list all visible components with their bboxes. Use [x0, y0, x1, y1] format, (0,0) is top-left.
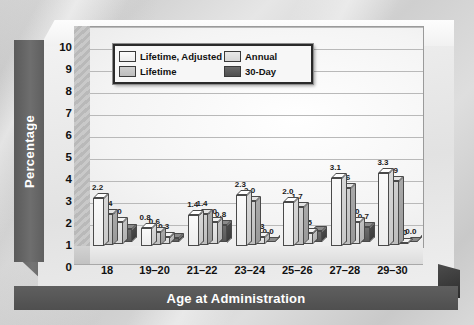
bar-29-30-lifetime-adjusted: 3.3	[378, 173, 389, 246]
bar-value-label: 2.2	[92, 183, 103, 192]
y-tick-4: 4	[46, 173, 72, 185]
bar-front	[141, 228, 152, 246]
bar-front	[188, 215, 199, 246]
bar-side	[104, 193, 109, 246]
plot-floor-side	[74, 246, 90, 264]
x-tick-19-20: 19–20	[139, 264, 170, 276]
chart-figure: Percentage 109876543210 2.21.41.00.80.60…	[0, 0, 474, 325]
x-tick-25-26: 25–26	[282, 264, 313, 276]
bar-19-20-lifetime-adjusted: 0.8	[141, 228, 152, 246]
bar-side	[399, 176, 404, 245]
x-tick-29-30: 29–30	[377, 264, 408, 276]
x-axis-tick-labels: 1819–2021–2223–2425–2627–2829–30	[90, 264, 423, 280]
bar-side	[113, 209, 118, 245]
y-tick-7: 7	[46, 107, 72, 119]
bar-group-27-28: 3.12.61.00.7	[331, 26, 379, 246]
bar-value-label: 0.8	[140, 213, 151, 222]
x-tick-18: 18	[101, 264, 113, 276]
y-axis-title: Percentage	[14, 40, 44, 262]
x-tick-21-22: 21–22	[187, 264, 218, 276]
legend-item-3[interactable]: 30-Day	[224, 64, 307, 79]
bar-value-label: 3.3	[377, 158, 388, 167]
bar-front	[236, 195, 247, 246]
x-axis-title: Age at Administration	[14, 286, 458, 310]
y-tick-10: 10	[46, 41, 72, 53]
legend-item-2[interactable]: Lifetime	[119, 64, 222, 79]
bar-value-label: 2.0	[282, 187, 293, 196]
legend-label-1: Annual	[245, 51, 277, 62]
bar-group-29-30: 3.32.90.00.0	[378, 26, 426, 246]
chart-legend: Lifetime, Adjusted Annual Lifetime 30-Da…	[113, 44, 313, 84]
bar-value-label: 3.1	[330, 163, 341, 172]
bar-18-lifetime-adjusted: 2.2	[93, 198, 104, 246]
bar-side	[304, 202, 309, 244]
bar-front	[93, 198, 104, 246]
bar-23-24-lifetime-adjusted: 2.3	[236, 195, 247, 246]
bar-side	[247, 190, 252, 246]
legend-item-0[interactable]: Lifetime, Adjusted	[119, 49, 222, 64]
y-tick-9: 9	[46, 63, 72, 75]
legend-swatch-lifetime	[119, 66, 136, 77]
bar-27-28-lifetime-adjusted: 3.1	[331, 178, 342, 246]
bar-side	[199, 210, 204, 246]
bar-side	[389, 168, 394, 246]
bar-front	[378, 173, 389, 246]
legend-swatch-annual	[224, 51, 241, 62]
legend-label-3: 30-Day	[245, 66, 276, 77]
legend-item-1[interactable]: Annual	[224, 49, 307, 64]
bar-front	[283, 202, 294, 246]
legend-swatch-lifetime-adjusted	[119, 51, 136, 62]
bar-value-label: 1.4	[187, 200, 198, 209]
legend-label-0: Lifetime, Adjusted	[140, 51, 222, 62]
bar-side	[351, 183, 356, 245]
y-tick-0: 0	[46, 261, 72, 273]
bar-front	[331, 178, 342, 246]
x-tick-23-24: 23–24	[234, 264, 265, 276]
bar-21-22-lifetime-adjusted: 1.4	[188, 215, 199, 246]
bar-25-26-lifetime-adjusted: 2.0	[283, 202, 294, 246]
legend-label-2: Lifetime	[140, 66, 176, 77]
y-tick-2: 2	[46, 217, 72, 229]
x-tick-27-28: 27–28	[330, 264, 361, 276]
y-tick-6: 6	[46, 129, 72, 141]
legend-swatch-30-day	[224, 66, 241, 77]
y-tick-5: 5	[46, 151, 72, 163]
y-axis-tick-labels: 109876543210	[44, 38, 74, 268]
bar-side	[294, 197, 299, 246]
plot-left-wall	[74, 26, 91, 246]
bar-side	[208, 209, 213, 245]
bar-side	[256, 196, 261, 245]
y-tick-8: 8	[46, 85, 72, 97]
bar-side	[342, 173, 347, 246]
y-tick-1: 1	[46, 239, 72, 251]
y-tick-3: 3	[46, 195, 72, 207]
bar-value-label: 2.3	[235, 180, 246, 189]
